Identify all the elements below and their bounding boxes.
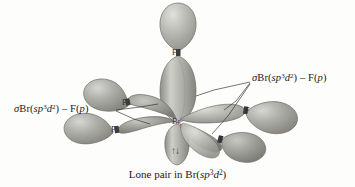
bond-label-right-text2: ) – F(: [294, 72, 318, 83]
caption-prefix: Lone pair in Br(: [129, 168, 200, 180]
fluorine-p-orbital-top: [160, 3, 196, 51]
bond-label-right-text1: Br(: [257, 72, 271, 83]
bond-label-right-sp: sp: [272, 72, 282, 83]
orbital-diagram-svg: [0, 0, 355, 187]
figure-canvas: σBr(sp3d2) – F(p) σBr(sp3d2) – F(p) Br F…: [0, 0, 355, 187]
lone-pair-electrons: ↑↓: [171, 145, 179, 156]
bond-label-left-sp: sp: [34, 103, 44, 114]
fluorine-label-right: F: [245, 106, 249, 115]
caption-sp: sp: [200, 168, 210, 180]
fluorine-p-orbital-right: [246, 102, 298, 134]
fluorine-label-upper-left: F: [122, 98, 126, 107]
figure-caption: Lone pair in Br(sp3d2): [0, 168, 355, 180]
central-atom-label: Br: [172, 116, 181, 126]
hybrid-orbital-left: [118, 117, 175, 134]
caption-suffix: ): [223, 168, 227, 180]
bond-label-left-text2: ) – F(: [56, 103, 80, 114]
fluorine-label-lower-right: F: [219, 135, 223, 144]
fluorine-label-top: F: [172, 48, 176, 57]
fluorine-label-lower-left: F: [111, 125, 115, 134]
bond-label-left-text1: Br(: [19, 103, 33, 114]
fluorine-p-orbital-lower-left: [64, 113, 113, 144]
bond-label-left-text3: ): [85, 103, 89, 114]
bond-label-left: σBr(sp3d2) – F(p): [14, 103, 89, 114]
bond-label-right: σBr(sp3d2) – F(p): [252, 72, 327, 83]
bond-label-right-text3: ): [323, 72, 327, 83]
fluorine-p-orbital-lower-right: [222, 132, 266, 162]
